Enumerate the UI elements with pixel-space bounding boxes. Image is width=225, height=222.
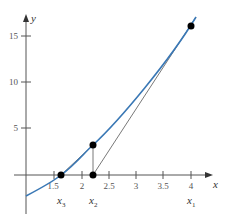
iteration-points xyxy=(58,23,195,179)
newtons-method-chart: 1.5 2 2.5 3 3.5 4 5 10 15 x y x3 x2 x1 xyxy=(0,0,225,222)
point-x3-on-axis xyxy=(58,172,65,179)
point-x2-on-axis xyxy=(90,172,97,179)
x-axis-label: x xyxy=(212,178,218,190)
x-tick-label: 3 xyxy=(134,181,139,191)
x-tick-label: 4 xyxy=(189,181,194,191)
point-x1-on-curve xyxy=(188,23,195,30)
point-x2-on-curve xyxy=(90,142,97,149)
y-axis-label: y xyxy=(30,12,36,24)
y-tick-label: 5 xyxy=(14,123,19,133)
x-axis-arrow-icon xyxy=(205,172,213,178)
y-axis-arrow-icon xyxy=(23,14,29,22)
x-tick-label: 2 xyxy=(80,181,85,191)
x-tick-label: 2.5 xyxy=(103,181,115,191)
y-tick-label: 15 xyxy=(9,31,19,41)
tangent-lines xyxy=(61,17,196,175)
x3-label: x3 xyxy=(56,194,66,209)
x2-label: x2 xyxy=(88,194,98,209)
function-curve xyxy=(26,17,196,196)
x1-label: x1 xyxy=(186,194,196,209)
x-tick-label: 3.5 xyxy=(157,181,169,191)
y-tick-label: 10 xyxy=(9,77,19,87)
